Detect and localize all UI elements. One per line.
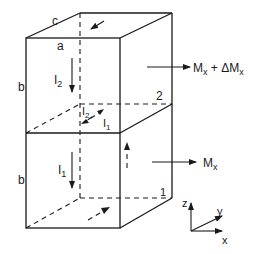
label-mx: Mx bbox=[203, 156, 218, 172]
front-face bbox=[26, 38, 120, 228]
label-cell-2: 2 bbox=[156, 89, 163, 103]
label-mx-plus-dmx: Mx + ΔMx bbox=[193, 61, 244, 77]
arrow-right-up-head bbox=[124, 142, 130, 150]
arrow-bottom-head bbox=[101, 207, 110, 214]
current-arrows bbox=[72, 21, 130, 220]
top-face bbox=[26, 13, 172, 38]
label-b-upper: b bbox=[18, 80, 25, 94]
label-i2-upper: I2 bbox=[54, 73, 62, 89]
y-axis-arrow bbox=[191, 216, 222, 231]
arrow-bottom-line bbox=[88, 210, 105, 220]
label-i2-mid: I2 bbox=[82, 105, 90, 120]
magnetization-cell-diagram: c a b b I2 I1 I2 I1 2 1 Mx + ΔMx Mx z y … bbox=[0, 0, 265, 254]
label-b-lower: b bbox=[18, 173, 25, 187]
label-a: a bbox=[57, 39, 64, 53]
label-i1-lower: I1 bbox=[58, 163, 66, 179]
arrow-top-back bbox=[91, 21, 104, 29]
label-cell-1: 1 bbox=[160, 186, 166, 198]
label-x: x bbox=[222, 234, 228, 246]
label-c: c bbox=[52, 14, 58, 28]
label-i1-mid: I1 bbox=[103, 117, 111, 132]
hidden-edges bbox=[26, 13, 172, 228]
label-z: z bbox=[182, 197, 188, 209]
axes-triad: z y x bbox=[182, 197, 228, 246]
label-y: y bbox=[217, 205, 223, 217]
